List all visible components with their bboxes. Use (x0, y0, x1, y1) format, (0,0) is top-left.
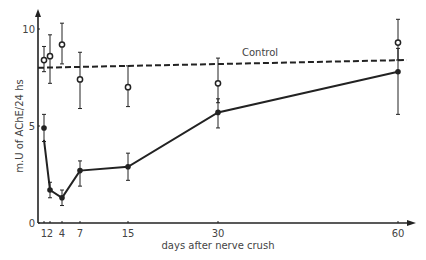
filled-circle-marker (125, 164, 131, 170)
x-tick-label: 7 (77, 228, 83, 239)
x-tick-label: 15 (122, 228, 135, 239)
control-line-path (38, 60, 407, 68)
filled-circle-marker (41, 125, 47, 131)
y-tick-label: 5 (29, 121, 35, 132)
open-circle-marker (47, 54, 52, 59)
control-dashed-line (38, 60, 407, 68)
y-axis-arrow-icon (35, 9, 41, 17)
chart: 12471530600510 Control days after nerve … (0, 0, 426, 260)
filled-circle-marker (395, 69, 401, 75)
filled-circle-marker (59, 195, 65, 201)
chart-canvas: 12471530600510 Control days after nerve … (0, 0, 426, 260)
open-circle-marker (77, 77, 82, 82)
y-tick-label: 0 (29, 218, 35, 229)
axes: 12471530600510 (22, 9, 416, 239)
nerve-crush-line (44, 72, 398, 198)
open-circle-marker (125, 85, 130, 90)
y-tick-label: 10 (22, 24, 35, 35)
open-circle-marker (41, 57, 46, 62)
filled-circle-marker (215, 110, 221, 116)
y-axis-label: m.U of AChE/24 hs (14, 79, 25, 172)
x-tick-label: 4 (59, 228, 65, 239)
open-circle-marker (59, 42, 64, 47)
filled-circle-marker (77, 168, 83, 174)
x-tick-label: 60 (392, 228, 405, 239)
x-axis-label: days after nerve crush (162, 240, 275, 251)
data-series (41, 19, 401, 205)
control-label: Control (242, 47, 278, 58)
filled-circle-marker (47, 187, 53, 193)
open-circle-marker (395, 40, 400, 45)
x-tick-label: 2 (47, 228, 53, 239)
open-circle-marker (215, 81, 220, 86)
x-tick-label: 30 (212, 228, 225, 239)
x-axis-arrow-icon (407, 220, 416, 226)
